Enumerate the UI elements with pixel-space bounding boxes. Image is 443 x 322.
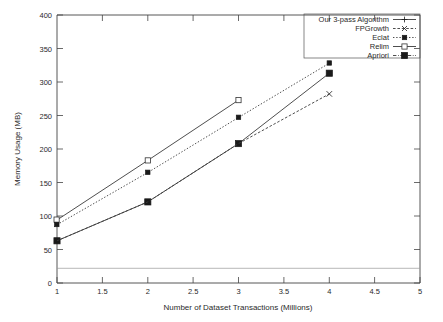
x-tick-label: 5 [418, 287, 422, 296]
series-fpgrowth [57, 91, 332, 241]
x-axis-ticks [57, 15, 420, 283]
x-tick-label: 1.5 [97, 287, 107, 296]
plot-frame [57, 15, 420, 283]
y-tick-label: 200 [39, 145, 52, 154]
x-tick-label: 1 [55, 287, 59, 296]
y-tick-label: 350 [39, 45, 52, 54]
legend-sample-relim [393, 44, 416, 49]
y-axis-title: Memory Usage (MB) [13, 112, 22, 186]
y-axis-ticks [57, 15, 420, 283]
eclat-marker [327, 61, 331, 65]
y-tick-label: 150 [39, 179, 52, 188]
y-axis-tick-labels: 0 50 100 150 200 250 300 350 400 [39, 11, 52, 288]
legend-label-eclat: Eclat [372, 33, 390, 42]
chart-figure: 0 50 100 150 200 250 300 350 400 [0, 0, 443, 322]
x-axis-title: Number of Dataset Transactions (Millions… [164, 303, 313, 312]
eclat-marker [236, 115, 240, 119]
y-tick-label: 0 [48, 279, 52, 288]
relim-marker [54, 217, 59, 222]
fpgrowth-line [57, 94, 329, 241]
x-tick-label: 4 [327, 287, 331, 296]
x-tick-label: 3 [236, 287, 240, 296]
y-tick-label: 100 [39, 212, 52, 221]
x-tick-label: 2.5 [188, 287, 198, 296]
apriori-marker [235, 141, 241, 147]
series-apriori [54, 70, 333, 244]
eclat-marker [55, 222, 59, 226]
eclat-line [57, 63, 329, 225]
relim-marker [145, 158, 150, 163]
legend-sample-fpgrowth [393, 26, 416, 31]
memory-usage-line-chart: 0 50 100 150 200 250 300 350 400 [0, 0, 443, 322]
legend-label-relim: Relim [370, 42, 389, 51]
x-tick-label: 2 [146, 287, 150, 296]
eclat-marker [146, 170, 150, 174]
legend-label-fpgrowth: FPGrowth [355, 24, 389, 33]
y-tick-label: 250 [39, 112, 52, 121]
legend-sample-our-3-pass-algorithm [393, 17, 416, 23]
x-tick-label: 3.5 [279, 287, 289, 296]
relim-marker [236, 98, 241, 103]
series-eclat [55, 61, 332, 227]
x-axis-tick-labels: 1 1.5 2 2.5 3 3.5 4 4.5 5 [55, 287, 422, 296]
apriori-marker [326, 70, 332, 76]
legend-label-our-3-pass-algorithm: Our 3-pass Algorithm [319, 15, 389, 24]
legend-label-apriori: Apriori [367, 51, 389, 60]
chart-legend: Our 3-pass Algorithm FPGrowth Eclat [304, 14, 420, 60]
legend-sample-eclat [393, 35, 416, 39]
apriori-line [57, 73, 329, 241]
y-tick-label: 400 [39, 11, 52, 20]
y-tick-label: 50 [44, 246, 52, 255]
fpgrowth-marker [327, 91, 333, 97]
y-tick-label: 300 [39, 78, 52, 87]
x-tick-label: 4.5 [369, 287, 379, 296]
